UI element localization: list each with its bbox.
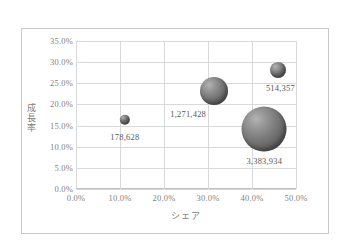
y-axis-tick-label: 20.0% bbox=[50, 99, 73, 109]
x-axis-tick-labels: 0.0%10.0%20.0%30.0%40.0%50.0% bbox=[76, 193, 296, 207]
x-axis-tick-label: 20.0% bbox=[153, 193, 176, 203]
y-axis-title-char: 長 bbox=[25, 113, 38, 123]
y-axis-tick-label: 35.0% bbox=[50, 36, 73, 46]
y-axis-tick-label: 15.0% bbox=[50, 121, 73, 131]
gridline-horizontal bbox=[76, 62, 296, 63]
x-axis-tick-label: 40.0% bbox=[241, 193, 264, 203]
gridline-horizontal bbox=[76, 83, 296, 84]
gridline-vertical bbox=[164, 41, 165, 189]
plot-area: 178,6281,271,428514,3573,383,934 bbox=[76, 41, 296, 189]
x-axis-tick-label: 50.0% bbox=[285, 193, 308, 203]
bubble-data-label: 1,271,428 bbox=[170, 109, 206, 119]
gridline-horizontal bbox=[76, 104, 296, 105]
bubble-point[interactable] bbox=[200, 77, 228, 105]
chart-frame: 0.0%5.0%10.0%15.0%20.0%25.0%30.0%35.0% 成… bbox=[21, 28, 329, 234]
gridline-vertical bbox=[208, 41, 209, 189]
y-axis-tick-label: 5.0% bbox=[54, 163, 73, 173]
bubble-point[interactable] bbox=[242, 106, 287, 151]
gridline-horizontal bbox=[76, 168, 296, 169]
y-axis-title: 成長率 bbox=[25, 103, 38, 133]
bubble-point[interactable] bbox=[120, 114, 130, 124]
x-axis-tick-label: 30.0% bbox=[197, 193, 220, 203]
gridline-horizontal bbox=[76, 189, 296, 190]
bubble-data-label: 3,383,934 bbox=[246, 156, 282, 166]
gridline-vertical bbox=[296, 41, 297, 189]
bubble-data-label: 514,357 bbox=[266, 83, 295, 93]
gridline-horizontal bbox=[76, 41, 296, 42]
bubble-data-label: 178,628 bbox=[110, 132, 139, 142]
y-axis-tick-labels: 0.0%5.0%10.0%15.0%20.0%25.0%30.0%35.0% bbox=[40, 41, 73, 189]
y-axis-title-char: 率 bbox=[25, 123, 38, 133]
x-axis-tick-label: 10.0% bbox=[109, 193, 132, 203]
x-axis-title: シェア bbox=[76, 209, 296, 222]
x-axis-tick-label: 0.0% bbox=[67, 193, 86, 203]
bubble-point[interactable] bbox=[270, 62, 286, 78]
y-axis-tick-label: 30.0% bbox=[50, 57, 73, 67]
y-axis-title-char: 成 bbox=[25, 103, 38, 113]
y-axis-tick-label: 10.0% bbox=[50, 142, 73, 152]
gridline-vertical bbox=[76, 41, 77, 189]
y-axis-tick-label: 25.0% bbox=[50, 78, 73, 88]
